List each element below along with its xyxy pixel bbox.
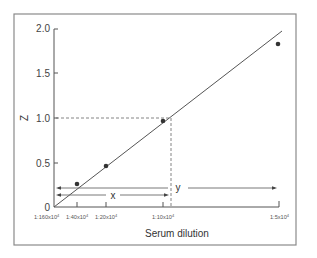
arrowhead-left-icon xyxy=(56,193,61,196)
x-tick-label: 1:40x104 xyxy=(66,213,89,220)
x-range-arrow: x xyxy=(56,190,169,201)
x-tick-label: 1:5x104 xyxy=(270,213,290,220)
arrowhead-right-icon xyxy=(164,193,169,196)
y-tick-label: 1.5 xyxy=(36,68,50,79)
x-tick-label: 1:160x104 xyxy=(34,213,60,220)
y-tick-label: 1.0 xyxy=(36,113,50,124)
x-axis-label: Serum dilution xyxy=(145,228,209,239)
regression-line xyxy=(54,31,282,207)
arrowhead-left-icon xyxy=(56,186,61,189)
y-range-arrow: y xyxy=(56,182,277,193)
x-tick-label: 1:20x104 xyxy=(95,213,118,220)
chart: 2.0 1.5 1.0 0.5 0 Z 1:160x104 1:40x104 1… xyxy=(0,0,317,258)
y-range-label: y xyxy=(176,182,181,193)
y-tick-label: 0.5 xyxy=(36,158,50,169)
data-point xyxy=(161,119,166,124)
arrowhead-right-icon xyxy=(272,186,277,189)
y-tick-label: 0 xyxy=(44,202,50,213)
y-tick-label: 2.0 xyxy=(36,23,50,34)
x-range-label: x xyxy=(111,190,116,201)
data-point xyxy=(104,164,109,169)
data-point xyxy=(276,42,281,47)
data-point xyxy=(75,182,80,187)
y-axis-label: Z xyxy=(19,115,30,121)
x-tick-label: 1:10x104 xyxy=(152,213,175,220)
